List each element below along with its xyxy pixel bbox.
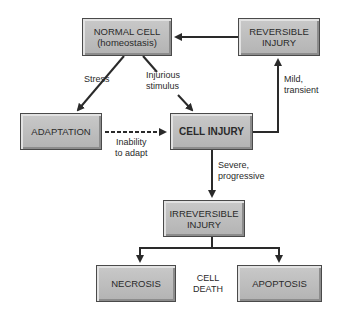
label-cell-death-line1: CELL [190, 273, 226, 284]
node-adaptation: ADAPTATION [20, 113, 102, 150]
label-injurious-line2: stimulus [146, 81, 180, 92]
arrow-injurious-stimulus [178, 95, 192, 110]
node-apoptosis: APOPTOSIS [237, 265, 322, 302]
arrow-to-apoptosis [212, 248, 279, 261]
label-injurious-line1: Injurious [146, 70, 180, 81]
node-irreversible-injury: IRREVERSIBLE INJURY [163, 200, 245, 237]
label-injurious-stimulus: Injurious stimulus [146, 70, 180, 91]
label-inability-to-adapt: Inability to adapt [115, 137, 148, 158]
label-severe-line1: Severe, [218, 160, 265, 171]
node-adaptation-label: ADAPTATION [31, 126, 90, 137]
label-mild-line2: transient [284, 85, 319, 96]
node-necrosis-label: NECROSIS [111, 278, 161, 289]
node-necrosis: NECROSIS [96, 265, 176, 302]
node-normal-cell-title: NORMAL CELL [94, 26, 161, 37]
node-reversible-injury-line1: REVERSIBLE [249, 26, 309, 37]
node-irreversible-injury-line1: IRREVERSIBLE [169, 208, 238, 219]
node-cell-injury: CELL INJURY [170, 113, 253, 150]
label-severe-progressive: Severe, progressive [218, 160, 265, 181]
label-stress: Stress [84, 74, 110, 85]
label-mild-line1: Mild, [284, 74, 319, 85]
node-irreversible-injury-line2: INJURY [187, 219, 221, 230]
node-reversible-injury-line2: INJURY [262, 37, 296, 48]
label-inability-line1: Inability [115, 137, 148, 148]
label-severe-line2: progressive [218, 171, 265, 182]
label-inability-line2: to adapt [115, 148, 148, 159]
node-normal-cell: NORMAL CELL (homeostasis) [82, 18, 172, 56]
label-cell-death: CELL DEATH [190, 273, 226, 294]
node-cell-injury-label: CELL INJURY [179, 126, 244, 137]
label-mild-transient: Mild, transient [284, 74, 319, 95]
node-reversible-injury: REVERSIBLE INJURY [238, 18, 320, 56]
arrow-mild-transient [253, 60, 278, 132]
node-normal-cell-subtitle: (homeostasis) [97, 37, 157, 48]
label-cell-death-line2: DEATH [190, 284, 226, 295]
node-apoptosis-label: APOPTOSIS [252, 278, 307, 289]
arrow-to-necrosis [140, 248, 212, 261]
